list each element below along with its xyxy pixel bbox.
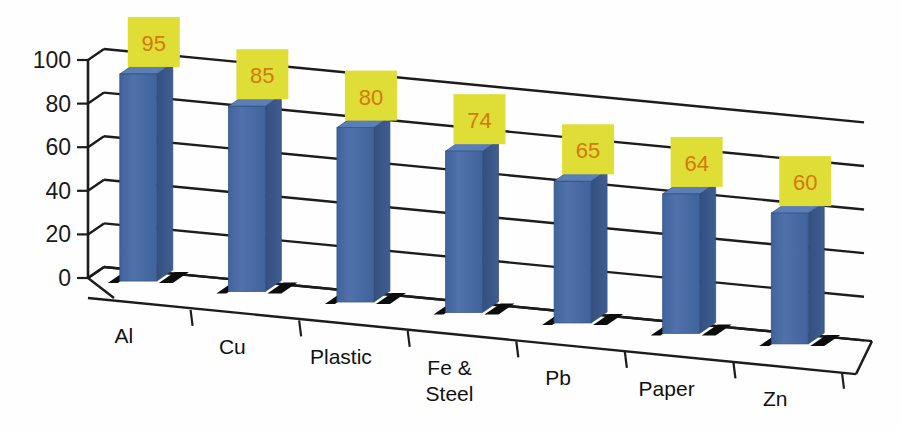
x-category-label-line1: Plastic	[310, 345, 372, 368]
x-category-label-line1: Cu	[219, 335, 246, 358]
bar-side-face	[265, 95, 281, 291]
value-label-text: 95	[142, 31, 166, 56]
x-category-label: Cu	[219, 335, 246, 358]
x-tick-mark	[733, 362, 735, 378]
gridline-depth-connector	[88, 136, 104, 147]
x-category-label-line2: Steel	[426, 382, 474, 405]
bar-group	[542, 170, 623, 325]
bar-group	[434, 140, 515, 314]
x-category-label: Paper	[639, 377, 695, 400]
floor-right-edge	[856, 341, 872, 374]
value-label-text: 64	[684, 151, 708, 176]
bar-front-face[interactable]	[446, 151, 483, 312]
bar-front-face[interactable]	[228, 106, 265, 291]
bar-side-face	[700, 183, 716, 334]
bar-front-face[interactable]	[554, 181, 591, 323]
x-tick-mark	[516, 341, 518, 357]
gridline-depth-connector	[88, 93, 104, 104]
bar-chart-figure: 02040608010095Al85Cu80Plastic74Fe &Steel…	[0, 0, 901, 430]
value-label-text: 74	[467, 108, 491, 133]
value-label-group: 64	[671, 137, 723, 187]
x-category-label-line1: Fe &	[427, 356, 471, 379]
bar-side-face	[483, 140, 499, 312]
bar-side-face	[374, 117, 390, 302]
x-tick-mark	[625, 352, 627, 368]
value-label-text: 60	[793, 170, 817, 195]
x-category-label-line1: Zn	[763, 387, 788, 410]
y-tick-label: 0	[58, 265, 71, 291]
y-tick-label: 60	[45, 134, 71, 160]
value-label-text: 65	[576, 138, 600, 163]
gridline-depth-connector	[88, 49, 104, 60]
value-label-text: 85	[250, 63, 274, 88]
bar-front-face[interactable]	[120, 74, 157, 281]
value-label-group: 74	[454, 94, 506, 144]
x-tick-mark	[408, 331, 410, 347]
y-tick-label: 100	[33, 47, 71, 73]
bar-group	[108, 63, 189, 283]
x-category-label: Pb	[545, 366, 571, 389]
value-label-group: 60	[779, 156, 831, 206]
y-tick-label: 40	[45, 178, 71, 204]
x-category-label-line1: Paper	[639, 377, 695, 400]
x-category-label-line1: Al	[114, 324, 133, 347]
x-category-label-line1: Pb	[545, 366, 571, 389]
x-category-label: Plastic	[310, 345, 372, 368]
y-tick-label: 80	[45, 91, 71, 117]
x-tick-mark	[191, 310, 193, 326]
plot-area: 02040608010095Al85Cu80Plastic74Fe &Steel…	[33, 17, 872, 410]
bar-group	[325, 117, 406, 304]
chart-canvas: 02040608010095Al85Cu80Plastic74Fe &Steel…	[0, 0, 901, 430]
bar-front-face[interactable]	[771, 213, 808, 344]
bar-group	[216, 95, 297, 293]
gridline-depth-connector	[88, 180, 104, 191]
bar-side-face	[808, 202, 824, 344]
bar-front-face[interactable]	[663, 194, 700, 334]
bar-group	[651, 183, 732, 336]
bar-front-face[interactable]	[337, 128, 374, 302]
x-tick-mark	[842, 373, 844, 389]
x-tick-mark	[299, 320, 301, 336]
x-category-label: Al	[114, 324, 133, 347]
y-tick-label: 20	[45, 221, 71, 247]
value-label-group: 80	[345, 71, 397, 121]
floor-origin-connector	[88, 267, 104, 278]
bar-group	[759, 202, 840, 346]
floor-origin-diagonal	[88, 278, 114, 298]
x-category-label: Fe &Steel	[426, 356, 474, 405]
bar-side-face	[591, 170, 607, 323]
gridline-depth-connector	[88, 223, 104, 234]
bar-side-face	[157, 63, 173, 281]
value-label-group: 85	[236, 49, 288, 99]
x-category-label: Zn	[763, 387, 788, 410]
value-label-text: 80	[359, 85, 383, 110]
value-label-group: 65	[562, 124, 614, 174]
value-label-group: 95	[128, 17, 180, 67]
